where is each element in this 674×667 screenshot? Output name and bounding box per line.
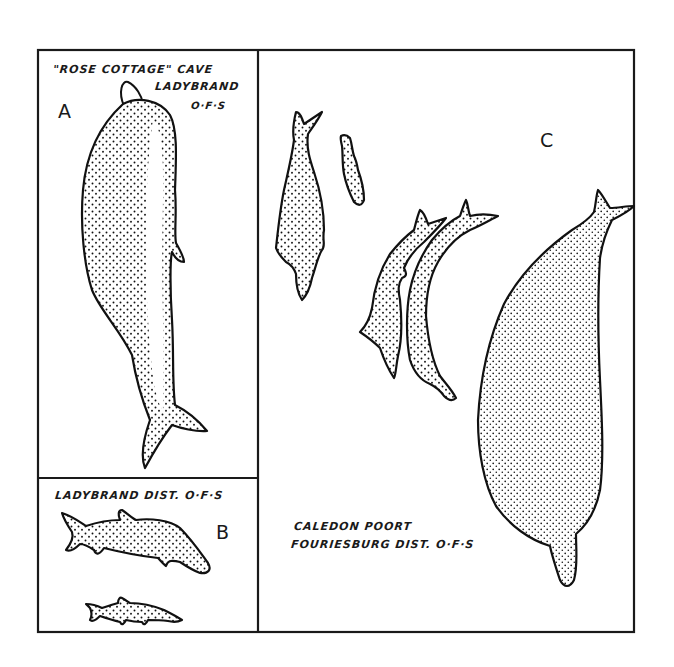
panel-a-caption-line-2: LADYBRAND — [154, 80, 240, 93]
panel-c-letter: C — [540, 129, 553, 151]
figure-a-body — [82, 100, 207, 468]
rock-art-figure-plate — [0, 0, 674, 667]
figure-c3 — [360, 210, 446, 378]
panel-a-letter: A — [58, 100, 71, 122]
panel-b-figures — [62, 510, 210, 624]
figure-c1 — [276, 112, 324, 300]
panel-b-caption: LADYBRAND DIST. O·F·S — [54, 489, 224, 502]
panel-c-caption-line-1: CALEDON POORT — [293, 520, 412, 533]
panel-a-caption-line-3: O·F·S — [190, 100, 226, 111]
figure-c2 — [341, 135, 364, 205]
panel-b-letter: B — [216, 521, 229, 543]
figure-c5 — [478, 190, 634, 586]
panel-c-caption-line-2: FOURIESBURG DIST. O·F·S — [290, 538, 475, 551]
panel-c-figures — [276, 112, 634, 586]
figure-b2 — [86, 598, 182, 624]
panel-a-figure — [82, 82, 207, 468]
figure-b1 — [62, 510, 210, 573]
panel-a-caption-line-1: "ROSE COTTAGE" CAVE — [52, 63, 214, 76]
